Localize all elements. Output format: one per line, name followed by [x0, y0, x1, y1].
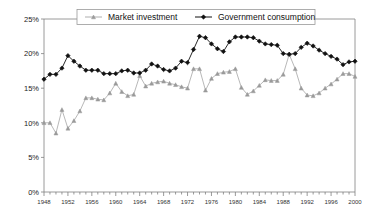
- chart-container: 0%5%10%15%20%25%194819521956196019641968…: [0, 0, 371, 213]
- legend: Market investmentGovernment consumption: [77, 10, 316, 25]
- series-2: [42, 34, 357, 81]
- data-point-marker: [239, 35, 243, 39]
- x-tick-label: 1992: [300, 199, 314, 205]
- data-point-marker: [180, 85, 184, 89]
- data-point-marker: [269, 42, 273, 46]
- data-point-marker: [114, 81, 118, 85]
- data-point-marker: [323, 86, 327, 90]
- x-tick-label: 1988: [277, 199, 291, 205]
- data-point-marker: [299, 86, 303, 90]
- data-point-marker: [72, 119, 76, 123]
- data-point-marker: [108, 71, 112, 75]
- y-tick-label: 20%: [24, 49, 39, 58]
- data-point-marker: [114, 71, 118, 75]
- y-tick-label: 15%: [24, 84, 39, 93]
- y-tick-label: 5%: [28, 153, 39, 162]
- legend-label: Government consumption: [218, 12, 316, 22]
- data-point-marker: [191, 47, 195, 51]
- data-point-marker: [257, 39, 261, 43]
- x-tick-label: 1964: [133, 199, 147, 205]
- data-point-marker: [126, 68, 130, 72]
- legend-label: Market investment: [108, 12, 178, 22]
- x-tick-label: 1948: [37, 199, 51, 205]
- data-point-marker: [102, 71, 106, 75]
- data-point-marker: [120, 69, 124, 73]
- x-tick-label: 1960: [109, 199, 123, 205]
- data-point-marker: [293, 67, 297, 71]
- data-point-marker: [90, 68, 94, 72]
- data-point-marker: [221, 49, 225, 53]
- x-tick-label: 1968: [157, 199, 171, 205]
- x-tick-label: 1956: [85, 199, 99, 205]
- x-tick-label: 1996: [324, 199, 338, 205]
- data-point-marker: [155, 64, 159, 68]
- data-point-marker: [185, 60, 189, 64]
- series-1: [42, 52, 357, 135]
- data-point-marker: [281, 72, 285, 76]
- y-tick-label: 25%: [24, 15, 39, 24]
- data-point-marker: [78, 109, 82, 113]
- data-point-marker: [197, 34, 201, 38]
- data-point-marker: [132, 71, 136, 75]
- data-point-marker: [54, 131, 58, 135]
- data-point-marker: [329, 54, 333, 58]
- data-point-marker: [347, 60, 351, 64]
- x-tick-label: 1972: [181, 199, 195, 205]
- data-point-marker: [233, 67, 237, 71]
- data-point-marker: [108, 91, 112, 95]
- data-point-marker: [168, 81, 172, 85]
- x-tick-label: 1984: [253, 199, 267, 205]
- x-tick-label: 1980: [229, 199, 243, 205]
- data-point-marker: [203, 88, 207, 92]
- data-point-marker: [132, 92, 136, 96]
- data-point-marker: [167, 69, 171, 73]
- data-point-marker: [245, 35, 249, 39]
- data-point-marker: [161, 67, 165, 71]
- x-tick-label: 2000: [348, 199, 362, 205]
- data-point-marker: [353, 59, 357, 63]
- data-point-marker: [137, 71, 141, 75]
- data-point-marker: [96, 68, 100, 72]
- data-point-marker: [251, 35, 255, 39]
- data-point-marker: [144, 84, 148, 88]
- x-tick-label: 1952: [61, 199, 75, 205]
- line-chart: 0%5%10%15%20%25%194819521956196019641968…: [0, 0, 371, 213]
- data-point-marker: [263, 42, 267, 46]
- data-point-marker: [60, 108, 64, 112]
- data-point-marker: [239, 86, 243, 90]
- data-point-marker: [323, 51, 327, 55]
- data-point-marker: [353, 74, 357, 78]
- y-tick-label: 10%: [24, 119, 39, 128]
- series-line: [44, 54, 355, 133]
- y-tick-label: 0%: [28, 188, 39, 197]
- x-tick-label: 1976: [205, 199, 219, 205]
